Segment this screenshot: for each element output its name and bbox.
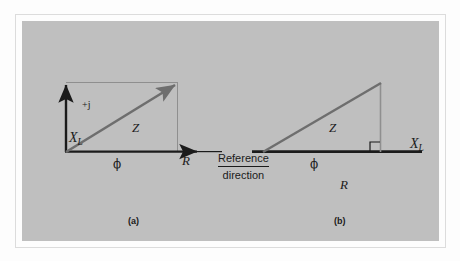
reactance-symbol-a: X [69,130,78,145]
reactance-label-a: XL [69,131,83,147]
phase-angle-label-a: ϕ [113,158,121,170]
phasor-diagram-svg [22,21,439,241]
figure-root: +j XL Z ϕ R Reference direction (a) Z ϕ … [0,0,460,261]
reactance-subscript-a: L [78,137,83,147]
right-angle-marker [370,142,380,151]
reactance-label-b: XL [410,137,424,153]
impedance-label-a: Z [132,121,139,134]
diagram-b [252,83,422,152]
impedance-label-b: Z [329,121,336,134]
imaginary-axis-label: +j [82,100,90,110]
resistance-label-b: R [340,178,348,191]
resistance-label-a: R [182,154,190,167]
reference-direction-label: Reference direction [218,151,269,182]
impedance-vector-b [263,83,381,152]
reactance-symbol-b: X [410,136,419,151]
diagram-a [65,83,222,153]
figure-panel: +j XL Z ϕ R Reference direction (a) Z ϕ … [22,21,439,241]
caption-b: (b) [334,217,346,226]
reactance-subscript-b: L [419,143,424,153]
caption-a: (a) [128,217,139,226]
phase-angle-label-b: ϕ [310,158,318,170]
reference-direction-line2: direction [218,167,269,182]
reference-direction-line1: Reference [218,151,269,167]
